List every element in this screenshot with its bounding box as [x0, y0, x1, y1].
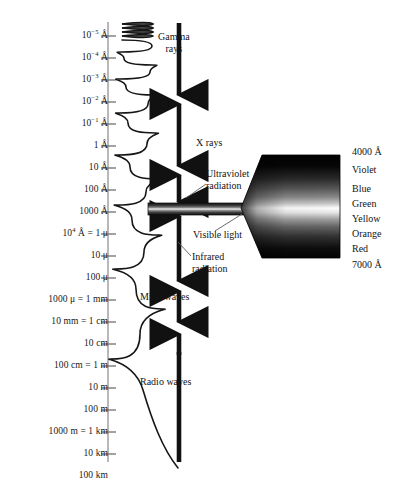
- tick-label-10-angstrom: 10 Å: [89, 163, 108, 173]
- color-name-red: Red: [352, 244, 368, 254]
- tick-label-10e-3-angstrom: 10−3 Å: [82, 75, 108, 85]
- band-label-x-rays: X rays: [196, 137, 222, 149]
- color-name-violet: Violet: [352, 165, 376, 175]
- spectrum-edge-label-7000-angstrom: 7000 Å: [352, 260, 382, 270]
- gamma-rays-line2: rays: [158, 43, 190, 55]
- tick-label-10e-4-angstrom: 10−4 Å: [82, 53, 108, 63]
- visible-light-band: [148, 203, 244, 215]
- tick-label-100-m: 100 m: [83, 405, 108, 415]
- leader-ultraviolet: [186, 184, 206, 198]
- tick-label-100-angstrom: 100 Å: [84, 185, 108, 195]
- color-name-blue: Blue: [352, 184, 371, 194]
- infrared-line2: radiation: [192, 263, 228, 275]
- tick-label-1000-angstrom: 1000 Å: [79, 207, 108, 217]
- color-name-yellow: Yellow: [352, 214, 380, 224]
- spectrum-artwork: [0, 0, 402, 481]
- tick-label-100-cm-1-m: 100 cm = 1 m: [54, 361, 108, 371]
- tick-label-10-m: 10 m: [88, 383, 108, 393]
- band-label-gamma-rays: Gamma rays: [158, 31, 190, 54]
- color-name-orange: Orange: [352, 229, 381, 239]
- wave-curve: [109, 40, 178, 468]
- tick-label-10e4-angstrom-1-micron: 104 Å = 1 μ: [63, 229, 108, 239]
- band-label-visible-light: Visible light: [193, 229, 242, 241]
- leader-lines: [178, 184, 242, 256]
- spectrum-edge-label-4000-angstrom: 4000 Å: [352, 147, 382, 157]
- tick-label-10-micron: 10 μ: [91, 251, 108, 261]
- wavelength-axis: [101, 22, 116, 462]
- infrared-line1: Infrared: [192, 251, 228, 263]
- band-label-ultraviolet-radiation: Ultraviolet radiation: [206, 168, 249, 191]
- tick-label-1000-m-1-km: 1000 m = 1 km: [49, 427, 108, 437]
- color-name-green: Green: [352, 199, 376, 209]
- band-label-radio-waves: Radio waves: [140, 376, 191, 388]
- tick-label-1000-micron-1-mm: 1000 μ = 1 mm: [48, 295, 108, 305]
- tick-label-10-cm: 10 cm: [84, 339, 108, 349]
- gamma-rays-line1: Gamma: [158, 31, 190, 43]
- electromagnetic-spectrum-figure: 10−5 Å 10−4 Å 10−3 Å 10−2 Å 10−1 Å 1 Å 1…: [0, 0, 402, 481]
- tick-label-100-km: 100 km: [79, 471, 108, 481]
- dispersion-fan: [238, 153, 344, 261]
- ultraviolet-line2: radiation: [206, 180, 249, 192]
- tick-label-10e-5-angstrom: 10−5 Å: [82, 31, 108, 41]
- band-label-microwaves: Microwaves: [140, 291, 189, 303]
- sinusoidal-wave: [109, 23, 178, 468]
- tick-label-10e-1-angstrom: 10−1 Å: [82, 119, 108, 129]
- ultraviolet-line1: Ultraviolet: [206, 168, 249, 180]
- tick-label-1-angstrom: 1 Å: [94, 141, 108, 151]
- band-label-infrared-radiation: Infrared radiation: [192, 251, 228, 274]
- tick-label-100-micron: 100 μ: [86, 273, 108, 283]
- tick-label-10-mm-1-cm: 10 mm = 1 cm: [51, 317, 108, 327]
- tick-label-10e-2-angstrom: 10−2 Å: [82, 97, 108, 107]
- tick-label-10-km: 10 km: [83, 449, 108, 459]
